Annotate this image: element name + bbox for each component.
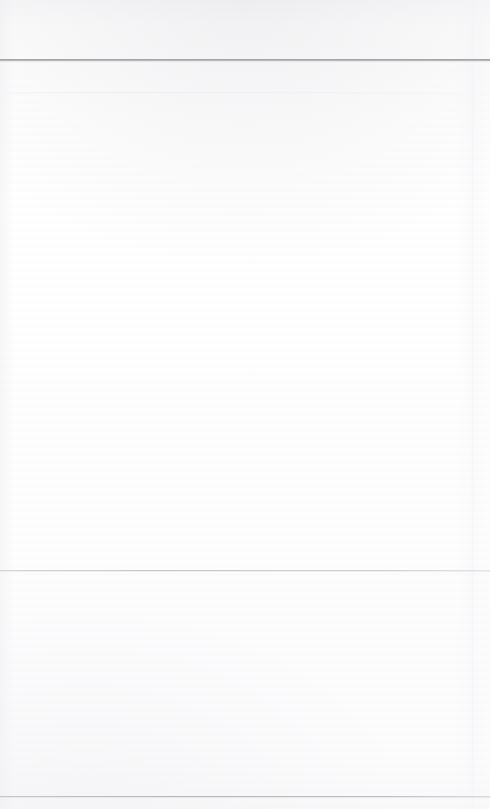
main-content-region xyxy=(0,93,490,570)
lower-content-region xyxy=(0,572,490,796)
masthead-region xyxy=(0,0,490,59)
scanned-page xyxy=(0,0,490,809)
footer-region xyxy=(0,798,490,809)
body-divider-rule xyxy=(0,570,490,571)
header-region xyxy=(0,61,490,92)
footer-rule xyxy=(0,796,490,797)
